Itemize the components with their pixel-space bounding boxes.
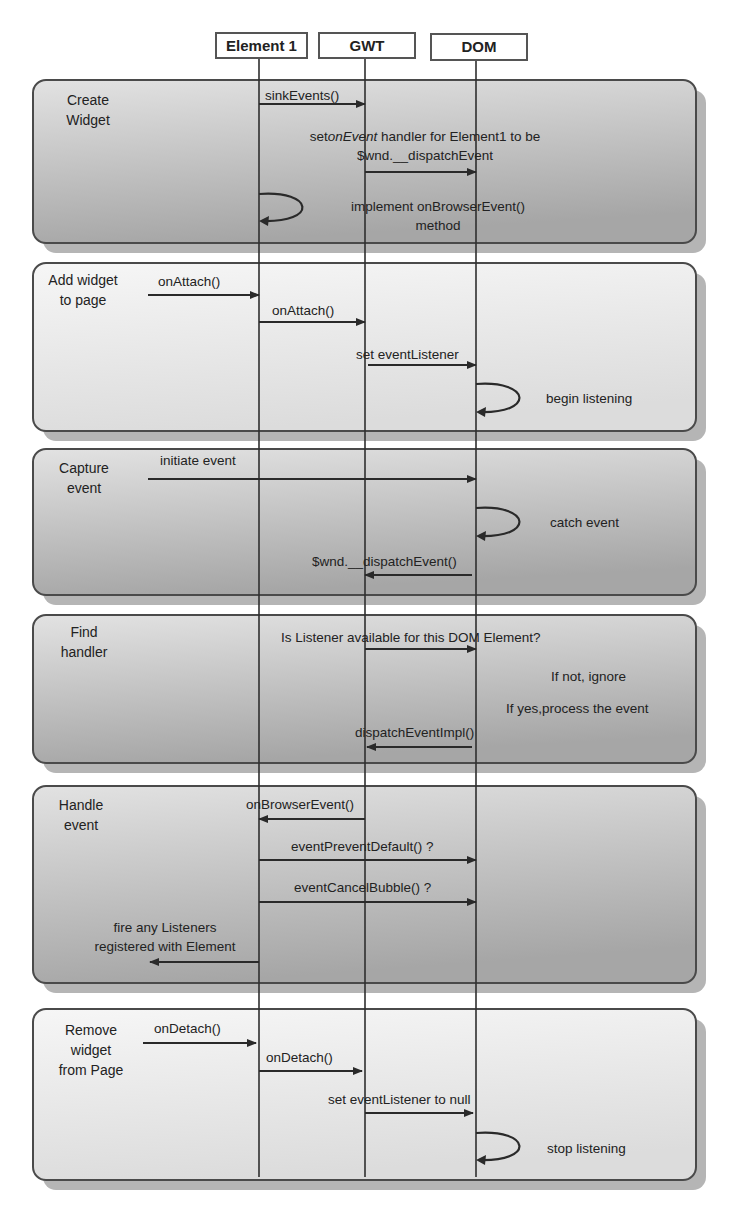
panel-title-line: handler [50, 642, 118, 662]
sequence-diagram: Element 1GWTDOMCreateWidgetsinkEvents()s… [0, 0, 737, 1217]
message-label: set eventListener [356, 345, 459, 364]
message-label-line: onDetach() [266, 1048, 333, 1067]
message-label: onAttach() [158, 272, 220, 291]
message-label: setonEvent handler for Element1 to be$wn… [280, 127, 570, 165]
message-label: begin listening [546, 389, 632, 408]
message-label-part: handler for Element1 to be [377, 129, 540, 144]
panel-title-line: widget [50, 1040, 132, 1060]
panel-title-add-widget: Add widgetto page [38, 270, 128, 310]
panel-title-create-widget: CreateWidget [48, 90, 128, 130]
panel-title-line: Capture [48, 458, 120, 478]
message-label-line: method [318, 216, 558, 235]
message-label: set eventListener to null [328, 1090, 471, 1109]
actor-gwt: GWT [318, 32, 416, 59]
message-label-line: onBrowserEvent() [246, 795, 354, 814]
message-label: onAttach() [272, 301, 334, 320]
message-label-line: eventPreventDefault() ? [291, 837, 434, 856]
panel-title-line: Handle [48, 795, 114, 815]
message-label-part: onEvent [328, 129, 378, 144]
message-label-line: setonEvent handler for Element1 to be [280, 127, 570, 146]
message-label-line: eventCancelBubble() ? [294, 878, 431, 897]
message-label: dispatchEventImpl() [355, 723, 474, 742]
message-label: implement onBrowserEvent()method [318, 197, 558, 235]
message-label: catch event [550, 513, 619, 532]
panel-title-line: event [48, 815, 114, 835]
message-label: sinkEvents() [265, 86, 339, 105]
panel-title-capture-event: Captureevent [48, 458, 120, 498]
panel-title-remove-widget: Removewidgetfrom Page [50, 1020, 132, 1080]
panel-title-line: event [48, 478, 120, 498]
message-label-line: stop listening [547, 1139, 626, 1158]
message-label-line: fire any Listeners [70, 918, 260, 937]
actor-element1: Element 1 [215, 32, 308, 59]
message-label: onBrowserEvent() [246, 795, 354, 814]
panel-title-line: Remove [50, 1020, 132, 1040]
message-label-part: set [310, 129, 328, 144]
panel-title-line: Add widget [38, 270, 128, 290]
message-label: onDetach() [266, 1048, 333, 1067]
panel-title-handle-event: Handleevent [48, 795, 114, 835]
message-label: onDetach() [154, 1019, 221, 1038]
message-label-line: Is Listener available for this DOM Eleme… [281, 628, 541, 647]
panel-title-line: to page [38, 290, 128, 310]
message-label: Is Listener available for this DOM Eleme… [281, 628, 541, 647]
message-label-line: onAttach() [158, 272, 220, 291]
message-label: stop listening [547, 1139, 626, 1158]
message-label-line: catch event [550, 513, 619, 532]
message-label: initiate event [160, 451, 236, 470]
message-label-line: If not, ignore [551, 667, 626, 686]
panel-title-line: Widget [48, 110, 128, 130]
message-label-line: onAttach() [272, 301, 334, 320]
message-label-line: implement onBrowserEvent() [318, 197, 558, 216]
message-label-line: $wnd.__dispatchEvent [280, 146, 570, 165]
message-label-line: initiate event [160, 451, 236, 470]
message-label: eventPreventDefault() ? [291, 837, 434, 856]
actor-dom: DOM [430, 33, 528, 61]
message-label: $wnd.__dispatchEvent() [312, 552, 457, 571]
message-label-line: onDetach() [154, 1019, 221, 1038]
panel-title-line: Find [50, 622, 118, 642]
message-label-line: dispatchEventImpl() [355, 723, 474, 742]
note-label: If yes,process the event [506, 699, 649, 718]
diagram-labels: Element 1GWTDOMCreateWidgetsinkEvents()s… [0, 0, 737, 1217]
message-label: fire any Listenersregistered with Elemen… [70, 918, 260, 956]
message-label-line: begin listening [546, 389, 632, 408]
message-label-line: set eventListener to null [328, 1090, 471, 1109]
message-label-line: sinkEvents() [265, 86, 339, 105]
message-label-line: If yes,process the event [506, 699, 649, 718]
note-label: If not, ignore [551, 667, 626, 686]
message-label-line: set eventListener [356, 345, 459, 364]
panel-title-find-handler: Findhandler [50, 622, 118, 662]
panel-title-line: from Page [50, 1060, 132, 1080]
message-label-line: registered with Element [70, 937, 260, 956]
message-label: eventCancelBubble() ? [294, 878, 431, 897]
message-label-line: $wnd.__dispatchEvent() [312, 552, 457, 571]
panel-title-line: Create [48, 90, 128, 110]
